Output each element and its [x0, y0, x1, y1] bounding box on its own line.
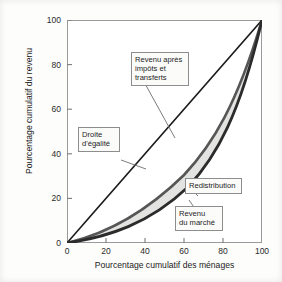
y-tick-label-20: 20 [39, 193, 61, 203]
callout-redistribution: Redistribution [185, 178, 242, 194]
x-tick-label-20: 20 [95, 246, 117, 256]
x-tick-label-100: 100 [251, 246, 273, 256]
y-axis-ticks [67, 20, 72, 198]
y-tick-label-100: 100 [39, 15, 61, 25]
chart-page: 100 80 60 40 20 0 0 20 40 60 80 100 Pour… [0, 0, 282, 282]
x-axis-title: Pourcentage cumulatif des ménages [67, 260, 262, 270]
x-tick-label-0: 0 [56, 246, 78, 256]
callout-market-income: Revenu du marché [175, 206, 223, 231]
x-tick-label-80: 80 [212, 246, 234, 256]
x-tick-label-40: 40 [134, 246, 156, 256]
callout-line-of-equality: Droite d'égalité [78, 127, 120, 152]
y-tick-label-60: 60 [39, 104, 61, 114]
y-tick-label-40: 40 [39, 149, 61, 159]
leader-line-after-tax [143, 80, 175, 138]
x-tick-label-60: 60 [173, 246, 195, 256]
callout-after-tax-income: Revenu après impôts et transferts [131, 52, 189, 86]
y-tick-label-80: 80 [39, 60, 61, 70]
x-axis-ticks [106, 238, 223, 243]
y-axis-title: Pourcentage cumulatif du revenu [24, 31, 34, 191]
